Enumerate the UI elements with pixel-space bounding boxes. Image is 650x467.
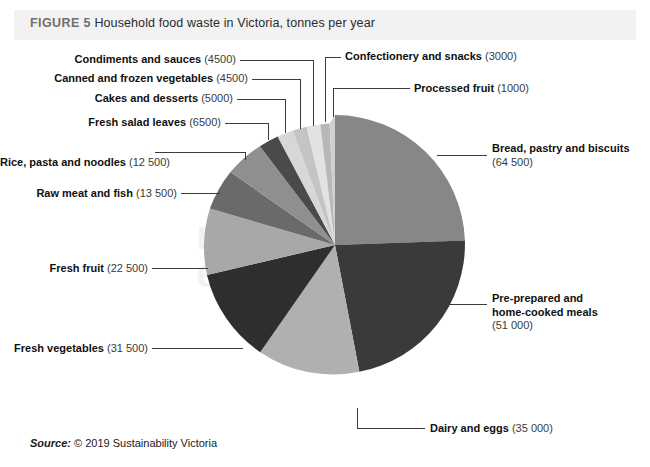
callout-processed-name: Processed fruit xyxy=(414,82,494,94)
callout-rice-value: (12 500) xyxy=(129,156,170,168)
callout-freshveg: Fresh vegetables (31 500) xyxy=(0,342,148,356)
callout-rawmeat: Raw meat and fish (13 500) xyxy=(0,187,177,201)
callout-condiments-value: (4500) xyxy=(204,53,236,65)
callout-meals-name-line1: Pre-prepared and xyxy=(492,292,644,306)
callout-dairy-name: Dairy and eggs xyxy=(430,422,509,434)
callout-cakes: Cakes and desserts (5000) xyxy=(0,92,233,106)
callout-freshfruit: Fresh fruit (22 500) xyxy=(0,262,148,276)
leader-line-dairy xyxy=(357,408,425,428)
callout-freshfruit-name: Fresh fruit xyxy=(50,262,104,274)
figure-container: FIGURE 5 Household food waste in Victori… xyxy=(0,0,650,467)
source-caption: Source: © 2019 Sustainability Victoria xyxy=(30,437,217,449)
callout-processed-value: (1000) xyxy=(497,82,529,94)
callout-confectionery: Confectionery and snacks (3000) xyxy=(345,50,517,64)
source-text: © 2019 Sustainability Victoria xyxy=(74,437,217,449)
callout-processed: Processed fruit (1000) xyxy=(414,82,529,96)
leader-line-condiments xyxy=(240,60,313,126)
callout-salad-name: Fresh salad leaves xyxy=(88,116,186,128)
callout-rice: Rice, pasta and noodles (12 500) xyxy=(0,156,151,170)
callout-cakes-value: (5000) xyxy=(201,92,233,104)
callout-bread-name: Bread, pastry and biscuits xyxy=(492,142,630,154)
leader-line-processed xyxy=(333,88,410,117)
callout-salad-value: (6500) xyxy=(189,116,221,128)
leader-line-canned xyxy=(252,79,300,129)
callout-confectionery-value: (3000) xyxy=(485,50,517,62)
callout-meals: Pre-prepared and home-cooked meals (51 0… xyxy=(492,292,644,333)
pie-slices xyxy=(204,115,465,374)
callout-freshveg-name: Fresh vegetables xyxy=(14,342,104,354)
leader-line-salad xyxy=(225,123,268,140)
callout-dairy: Dairy and eggs (35 000) xyxy=(430,422,553,436)
callout-dairy-value: (35 000) xyxy=(512,422,553,434)
pie-slice-bread[interactable] xyxy=(335,115,465,245)
callout-meals-value: (51 000) xyxy=(492,319,644,333)
pie-chart xyxy=(0,0,650,467)
callout-freshfruit-value: (22 500) xyxy=(107,262,148,274)
callout-canned-value: (4500) xyxy=(216,72,248,84)
callout-condiments-name: Condiments and sauces xyxy=(75,53,202,65)
callout-bread-value: (64 500) xyxy=(492,156,533,168)
callout-rawmeat-value: (13 500) xyxy=(136,187,177,199)
callout-bread: Bread, pastry and biscuits (64 500) xyxy=(492,142,644,169)
callout-meals-name-line2: home-cooked meals xyxy=(492,306,644,320)
callout-confectionery-name: Confectionery and snacks xyxy=(345,50,482,62)
callout-canned-name: Canned and frozen vegetables xyxy=(54,72,213,84)
callout-condiments: Condiments and sauces (4500) xyxy=(0,53,236,67)
callout-canned: Canned and frozen vegetables (4500) xyxy=(0,72,248,86)
leader-line-cakes xyxy=(237,99,285,133)
callout-cakes-name: Cakes and desserts xyxy=(95,92,198,104)
source-label: Source: xyxy=(30,437,71,449)
callout-rice-name: Rice, pasta and noodles xyxy=(0,156,126,168)
callout-freshveg-value: (31 500) xyxy=(107,342,148,354)
callout-rawmeat-name: Raw meat and fish xyxy=(36,187,133,199)
callout-salad: Fresh salad leaves (6500) xyxy=(0,116,221,130)
